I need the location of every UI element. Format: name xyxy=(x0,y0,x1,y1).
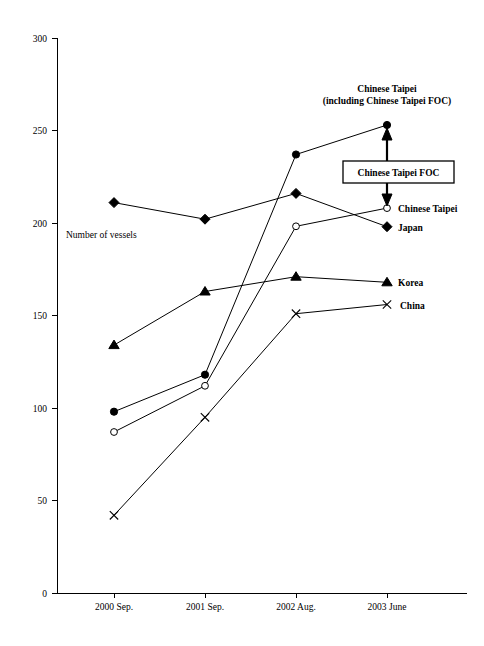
series-callout-line2: (including Chinese Taipei FOC) xyxy=(323,96,452,107)
x-tick-label-2001-sep: 2001 Sep. xyxy=(186,602,224,612)
legend-label-japan: Japan xyxy=(398,223,424,233)
x-tick-label-2000-sep: 2000 Sep. xyxy=(95,602,133,612)
series-markers-china xyxy=(110,300,391,519)
y-axis-note: Number of vessels xyxy=(66,230,137,240)
y-axis-ticks xyxy=(52,38,57,593)
y-tick-label-250: 250 xyxy=(33,126,48,136)
series-markers-japan xyxy=(109,188,392,231)
series-line-chinese-taipei xyxy=(114,208,387,432)
chart-container: 300 250 200 150 100 50 0 2000 Sep. 2001 … xyxy=(0,0,484,646)
y-tick-label-150: 150 xyxy=(33,311,48,321)
foc-callout-label: Chinese Taipei FOC xyxy=(358,168,440,178)
legend-label-chinese-taipei: Chinese Taipei xyxy=(398,204,458,214)
series-line-korea xyxy=(114,277,387,345)
legend-label-korea: Korea xyxy=(398,278,423,288)
x-axis-ticks xyxy=(114,593,387,598)
y-tick-label-50: 50 xyxy=(38,496,48,506)
x-tick-label-2003-june: 2003 June xyxy=(368,602,407,612)
y-tick-label-200: 200 xyxy=(33,219,48,229)
series-line-japan xyxy=(114,193,387,226)
y-tick-label-100: 100 xyxy=(33,404,48,414)
series-callout-line1: Chinese Taipei xyxy=(357,84,417,94)
y-tick-label-300: 300 xyxy=(33,34,48,44)
series-markers-chinese-taipei xyxy=(111,205,391,436)
series-line-china xyxy=(114,305,387,516)
series-markers-korea xyxy=(109,272,392,349)
y-tick-label-0: 0 xyxy=(42,589,47,599)
legend-label-china: China xyxy=(400,301,425,311)
x-tick-label-2002-aug: 2002 Aug. xyxy=(276,602,316,612)
line-chart: 300 250 200 150 100 50 0 2000 Sep. 2001 … xyxy=(0,0,484,646)
